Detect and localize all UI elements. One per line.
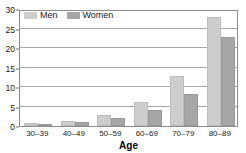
bar-men-30-39	[24, 123, 38, 126]
x-axis-tick-label: 50–59	[99, 130, 121, 138]
bars-layer	[20, 11, 237, 126]
x-axis-tick-label: 60–69	[136, 130, 158, 138]
y-axis-tick-label: 25	[6, 25, 15, 34]
bar-women-70-79	[184, 94, 198, 126]
legend-swatch-women-icon	[67, 12, 80, 19]
bar-group	[24, 11, 52, 126]
bar-chart-figure: 051015202530 Men Women 30–3940–4950–5960…	[0, 0, 246, 153]
bar-women-50-59	[111, 118, 125, 126]
x-axis-tick-label: 30–39	[26, 130, 48, 138]
legend-entry-men: Men	[24, 11, 58, 20]
y-axis-tick-label: 10	[6, 84, 15, 93]
x-axis: 30–3940–4950–5960–6970–7980–89	[19, 128, 238, 140]
bar-group	[61, 11, 89, 126]
y-axis-tick-label: 0	[10, 123, 15, 132]
y-axis-tick-label: 20	[6, 45, 15, 54]
x-axis-tick-label: 80–89	[209, 130, 231, 138]
legend-label-men: Men	[40, 11, 58, 20]
bar-women-80-89	[221, 37, 235, 126]
bar-men-80-89	[207, 17, 221, 126]
bar-women-60-69	[148, 110, 162, 126]
y-axis-tick-label: 30	[6, 6, 15, 15]
legend-entry-women: Women	[67, 11, 114, 20]
bar-group	[170, 11, 198, 126]
bar-women-30-39	[38, 124, 52, 126]
x-axis-tick-label: 70–79	[172, 130, 194, 138]
bar-group	[207, 11, 235, 126]
bar-men-60-69	[134, 102, 148, 126]
bar-group	[97, 11, 125, 126]
plot-area	[19, 10, 238, 127]
y-axis: 051015202530	[0, 0, 19, 137]
bar-men-70-79	[170, 76, 184, 126]
legend-swatch-men-icon	[24, 12, 37, 19]
bar-men-40-49	[61, 121, 75, 126]
chart-legend: Men Women	[24, 11, 113, 20]
bar-group	[134, 11, 162, 126]
x-axis-tick-label: 40–49	[63, 130, 85, 138]
bar-women-40-49	[75, 122, 89, 126]
bar-men-50-59	[97, 115, 111, 126]
legend-label-women: Women	[83, 11, 114, 20]
x-axis-title: Age	[19, 140, 238, 151]
y-axis-tick-label: 5	[10, 103, 15, 112]
y-axis-tick-label: 15	[6, 64, 15, 73]
